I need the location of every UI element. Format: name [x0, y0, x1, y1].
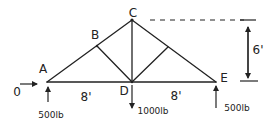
height-dimension: 6': [253, 44, 264, 56]
node-label-d: D: [119, 85, 128, 97]
load-label-e: 500lb: [224, 104, 249, 113]
node-label-b: B: [91, 29, 99, 41]
node-label-a: A: [39, 63, 47, 75]
load-label-a-horizontal: 0: [13, 86, 21, 98]
member-a-c: [47, 20, 132, 82]
node-label-c: C: [129, 7, 137, 19]
member-c-e: [132, 20, 216, 82]
load-label-d: 1000lb: [137, 107, 168, 116]
left-span-dimension: 8': [81, 91, 92, 103]
joint-b: [96, 45, 98, 47]
right-span-dimension: 8': [171, 90, 182, 102]
node-label-e: E: [220, 72, 228, 84]
truss-diagram: A B C D E 8' 8' 6' 0 500lb 1000lb 500lb: [0, 0, 272, 131]
member-d-f: [132, 47, 168, 82]
joint-d: [131, 81, 133, 83]
load-label-a-vertical: 500lb: [38, 111, 63, 120]
member-b-d: [97, 46, 132, 82]
